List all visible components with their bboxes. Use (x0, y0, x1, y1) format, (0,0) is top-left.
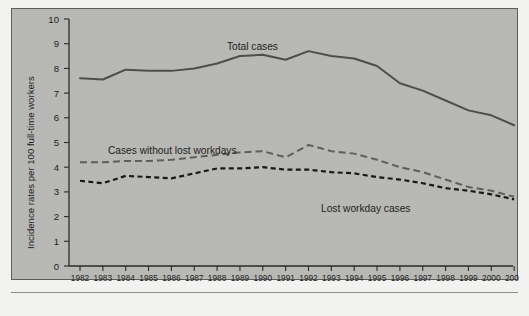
series-line-lost-workday-cases (80, 167, 514, 199)
x-tick-label: 1991 (276, 273, 295, 281)
y-tick-label: 1 (54, 236, 59, 247)
x-tick-label: 1986 (162, 273, 181, 281)
x-tick-label: 1995 (368, 273, 387, 281)
x-tick-label: 1998 (436, 273, 455, 281)
y-ticks (64, 19, 69, 266)
annotation-cases-without-lost-workdays: Cases without lost workdays (108, 145, 237, 156)
x-tick-label: 1993 (322, 273, 341, 281)
x-tick-label: 1982 (71, 273, 90, 281)
x-tick-labels: 1982198319841985198619871988198919901991… (71, 273, 519, 281)
x-tick-label: 2000 (482, 273, 501, 281)
x-tick-label: 1983 (94, 273, 113, 281)
line-chart: 10 9 8 7 6 5 4 3 2 1 0 Incidence rates p… (12, 9, 519, 281)
y-tick-label: 0 (54, 261, 59, 272)
x-tick-label: 1990 (254, 273, 273, 281)
x-tick-label: 1992 (299, 273, 318, 281)
x-tick-label: 1985 (139, 273, 158, 281)
y-tick-label: 6 (54, 112, 59, 123)
y-axis-title: Incidence rates per 100 full-time worker… (25, 76, 36, 249)
series-line-total-cases (80, 51, 514, 125)
x-tick-label: 2001 (505, 273, 519, 281)
x-tick-label: 1989 (231, 273, 250, 281)
y-tick-labels: 10 9 8 7 6 5 4 3 2 1 0 (48, 14, 59, 272)
x-tick-label: 1996 (391, 273, 410, 281)
x-tick-label: 1997 (414, 273, 433, 281)
x-ticks (80, 266, 514, 271)
x-tick-label: 1988 (208, 273, 227, 281)
x-tick-label: 1987 (185, 273, 204, 281)
y-tick-label: 2 (54, 211, 59, 222)
y-tick-label: 4 (54, 162, 60, 173)
x-tick-label: 1984 (116, 273, 135, 281)
chart-page: 10 9 8 7 6 5 4 3 2 1 0 Incidence rates p… (0, 0, 529, 316)
y-tick-label: 7 (54, 88, 59, 99)
y-tick-label: 8 (54, 63, 59, 74)
figure-bottom-rule (11, 292, 518, 293)
x-tick-label: 1994 (345, 273, 364, 281)
y-tick-label: 5 (54, 137, 59, 148)
x-tick-label: 1999 (459, 273, 478, 281)
figure-frame: 10 9 8 7 6 5 4 3 2 1 0 Incidence rates p… (11, 8, 518, 280)
y-tick-label: 9 (54, 38, 59, 49)
annotation-total-cases: Total cases (227, 41, 278, 52)
y-tick-label: 3 (54, 186, 59, 197)
annotation-lost-workday-cases: Lost workday cases (321, 203, 410, 214)
y-tick-label: 10 (48, 14, 59, 25)
